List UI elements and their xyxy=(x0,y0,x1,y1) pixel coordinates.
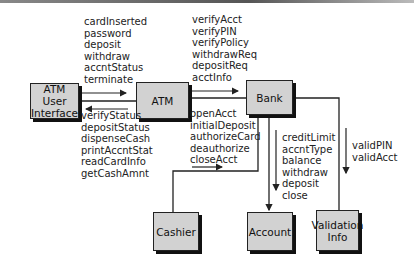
message-label: deposit xyxy=(282,178,335,190)
box-label: ATM xyxy=(152,95,174,107)
message-label: verifyAcct xyxy=(192,14,257,26)
box-label: User xyxy=(31,95,78,107)
message-label: readCardInfo xyxy=(81,156,153,168)
message-label: accntType xyxy=(282,144,335,156)
message-label: balance xyxy=(282,155,335,167)
message-label: openAcct xyxy=(190,108,261,120)
cashier-box: Cashier xyxy=(153,212,199,251)
message-label: accntStatus xyxy=(84,62,147,74)
message-label: validPIN xyxy=(352,140,398,152)
box-label: Bank xyxy=(256,92,282,104)
account-box: Account xyxy=(247,212,293,251)
box-label: Cashier xyxy=(156,226,196,238)
message-label: deauthorize xyxy=(190,143,261,155)
box-label: Interface xyxy=(31,107,78,119)
message-label: getCashAmnt xyxy=(81,168,153,180)
message-label: withdrawReq xyxy=(192,49,257,61)
box-label: ATM xyxy=(31,83,78,95)
message-label: withdraw xyxy=(282,167,335,179)
message-label: depositStatus xyxy=(81,122,153,134)
message-label: close xyxy=(282,190,335,202)
ui-to-atm-messages: cardInserted password deposit withdraw a… xyxy=(84,16,147,86)
bank-to-account-messages: creditLimit accntType balance withdraw d… xyxy=(282,132,335,202)
box-label: Account xyxy=(249,226,291,238)
message-label: verifyStatus xyxy=(81,110,153,122)
atm-user-interface-box: ATM User Interface xyxy=(30,83,79,119)
message-label: creditLimit xyxy=(282,132,335,144)
message-label: authorizeCard xyxy=(190,131,261,143)
message-label: printAccntStat xyxy=(81,145,153,157)
message-label: password xyxy=(84,28,147,40)
message-label: cardInserted xyxy=(84,16,147,28)
message-label: closeAcct xyxy=(190,154,261,166)
atm-to-ui-messages: verifyStatus depositStatus dispenseCash … xyxy=(81,110,153,180)
validation-info-box: Validation Info xyxy=(316,210,359,251)
bank-to-validation-messages: validPIN validAcct xyxy=(352,140,398,163)
atm-to-bank-messages: verifyAcct verifyPIN verifyPolicy withdr… xyxy=(192,14,257,84)
message-label: terminate xyxy=(84,74,147,86)
box-label: Validation xyxy=(312,219,364,231)
message-label: dispenseCash xyxy=(81,133,153,145)
message-label: deposit xyxy=(84,39,147,51)
message-label: withdraw xyxy=(84,51,147,63)
message-label: verifyPIN xyxy=(192,26,257,38)
message-label: acctInfo xyxy=(192,72,257,84)
message-label: depositReq xyxy=(192,60,257,72)
box-label: Info xyxy=(312,231,364,243)
bank-to-cashier-messages: openAcct initialDeposit authorizeCard de… xyxy=(190,108,261,166)
message-label: initialDeposit xyxy=(190,120,261,132)
message-label: verifyPolicy xyxy=(192,37,257,49)
message-label: validAcct xyxy=(352,152,398,164)
